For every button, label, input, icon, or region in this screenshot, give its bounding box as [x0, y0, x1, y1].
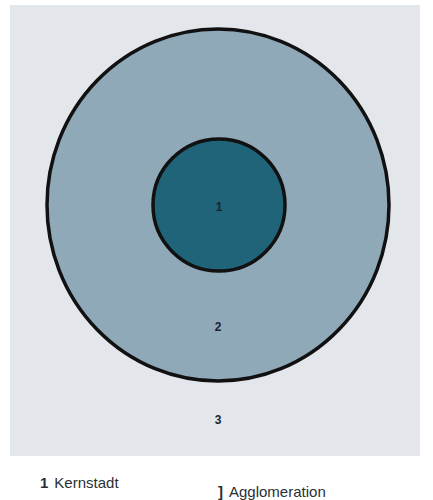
legend-item-agglomeration: ]Agglomeration — [218, 483, 326, 500]
legend-label: Kernstadt — [54, 474, 118, 491]
legend-number: ] — [218, 483, 223, 500]
legend-item-kernstadt: 1Kernstadt — [40, 474, 119, 491]
legend-label: Agglomeration — [229, 483, 326, 500]
legend-number: 1 — [40, 474, 48, 491]
zone-3-label: 3 — [215, 413, 222, 427]
zone-2-label: 2 — [215, 320, 222, 334]
zone-1-label: 1 — [216, 200, 223, 214]
